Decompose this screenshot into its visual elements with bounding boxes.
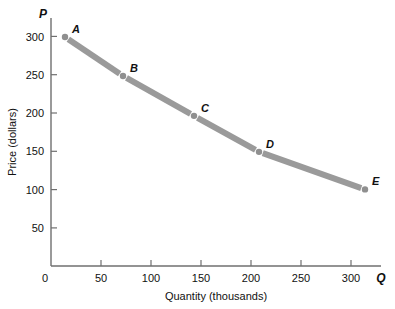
data-point-label-A: A [71, 23, 80, 35]
y-ticklabel-100: 100 [26, 184, 44, 196]
x-axis-symbol-Q: Q [376, 271, 386, 285]
demand-curve-series: ABCDE [62, 23, 380, 193]
y-ticklabel-50: 50 [32, 222, 44, 234]
x-ticklabel-0: 0 [42, 272, 48, 284]
x-axis-ticks [101, 260, 351, 266]
data-point-A[interactable] [62, 34, 68, 40]
x-ticklabel-300: 300 [342, 272, 360, 284]
demand-curve-figure: 300 250 200 150 100 50 0 50 100 150 200 … [0, 0, 395, 309]
curve-segment-BC [126, 78, 190, 114]
x-axis-title: Quantity (thousands) [165, 290, 267, 302]
data-point-label-E: E [372, 175, 380, 187]
chart-canvas: 300 250 200 150 100 50 0 50 100 150 200 … [0, 0, 395, 309]
curve-segment-DE [263, 153, 361, 188]
x-ticklabel-50: 50 [95, 272, 107, 284]
y-ticklabel-250: 250 [26, 69, 44, 81]
x-ticklabel-150: 150 [192, 272, 210, 284]
y-axis-ticks [51, 36, 57, 228]
x-ticklabel-100: 100 [142, 272, 160, 284]
curve-segment-CD [198, 118, 256, 150]
y-axis-title: Price (dollars) [6, 108, 18, 176]
y-ticklabel-300: 300 [26, 31, 44, 43]
x-ticklabel-200: 200 [242, 272, 260, 284]
data-point-label-D: D [266, 138, 274, 150]
data-point-E[interactable] [362, 186, 368, 192]
y-ticklabel-150: 150 [26, 145, 44, 157]
x-ticklabel-250: 250 [292, 272, 310, 284]
data-point-label-B: B [130, 62, 138, 74]
data-point-C[interactable] [191, 113, 197, 119]
curve-segment-AB [68, 39, 119, 74]
y-axis-symbol-P: P [39, 7, 48, 21]
data-point-D[interactable] [256, 149, 262, 155]
data-point-label-C: C [201, 102, 210, 114]
y-ticklabel-200: 200 [26, 107, 44, 119]
data-point-B[interactable] [120, 73, 126, 79]
